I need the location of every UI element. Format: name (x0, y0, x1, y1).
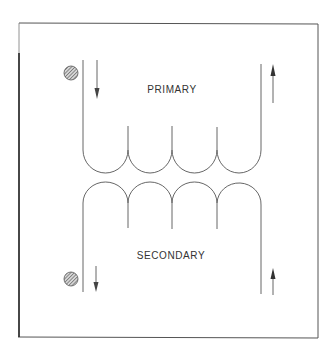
primary-current-in-arrow-icon (95, 60, 100, 99)
primary-current-out-arrow-icon (271, 64, 276, 103)
secondary-current-out-arrow-icon (271, 268, 276, 295)
primary-polarity-dot-icon (64, 66, 78, 80)
secondary-polarity-dot-icon (64, 272, 78, 286)
secondary-label: SECONDARY (137, 250, 206, 261)
transformer-diagram: PRIMARY SECONDARY (0, 0, 335, 357)
secondary-current-in-arrow-icon (94, 266, 99, 292)
primary-winding (83, 60, 261, 173)
secondary-winding (83, 182, 261, 294)
primary-label: PRIMARY (147, 84, 197, 95)
